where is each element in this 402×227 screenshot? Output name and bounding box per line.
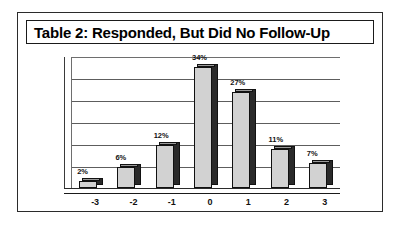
x-tick-label: 0	[195, 197, 225, 207]
bar-value-label: 12%	[154, 131, 184, 140]
bar-top-face	[120, 164, 138, 167]
bar	[271, 149, 289, 188]
bar-value-label: 2%	[77, 167, 107, 176]
bar-side-face	[327, 160, 333, 185]
y-axis-wall	[64, 57, 72, 194]
chart-figure: Table 2: Responded, But Did No Follow-Up…	[17, 12, 383, 212]
bar-value-label: 27%	[230, 78, 260, 87]
bar-side-face	[174, 142, 180, 185]
bar-top-face	[159, 142, 177, 145]
bar-value-label: 34%	[192, 53, 222, 62]
bar-top-face	[235, 89, 253, 92]
x-tick-label: 2	[272, 197, 302, 207]
bar-side-face	[289, 146, 295, 185]
bar-top-face	[82, 178, 100, 181]
bar-column: 27%	[232, 57, 256, 188]
chart-title-box: Table 2: Responded, But Did No Follow-Up	[26, 20, 374, 44]
bar-column: 34%	[194, 57, 218, 188]
bar-value-label: 7%	[307, 149, 337, 158]
bar	[79, 181, 97, 188]
x-tick-label: 1	[233, 197, 263, 207]
bar-series: 2%6%12%34%27%11%7%	[72, 57, 340, 188]
bar	[117, 167, 135, 188]
bar	[194, 67, 212, 188]
bar	[232, 92, 250, 188]
bar-column: 6%	[117, 57, 141, 188]
bar-top-face	[312, 160, 330, 163]
bar-column: 12%	[156, 57, 180, 188]
bar-value-label: 11%	[269, 135, 299, 144]
x-axis-tick-labels: -3-2-10123	[72, 197, 348, 211]
x-tick-label: 3	[310, 197, 340, 207]
page-title: Table 2: Responded, But Did No Follow-Up	[27, 24, 330, 41]
plot-floor	[64, 188, 340, 194]
bar-top-face	[197, 64, 215, 67]
x-tick-label: -3	[80, 197, 110, 207]
bar-side-face	[212, 64, 218, 185]
bar-column: 2%	[79, 57, 103, 188]
bar-side-face	[250, 89, 256, 185]
bar-top-face	[274, 146, 292, 149]
bar	[156, 145, 174, 188]
bar-column: 7%	[309, 57, 333, 188]
x-tick-label: -1	[157, 197, 187, 207]
bar	[309, 163, 327, 188]
bar-side-face	[135, 164, 141, 185]
bar-column: 11%	[271, 57, 295, 188]
x-tick-label: -2	[118, 197, 148, 207]
plot-region: 2%6%12%34%27%11%7% -3-2-10123	[64, 57, 354, 207]
bar-value-label: 6%	[115, 153, 145, 162]
